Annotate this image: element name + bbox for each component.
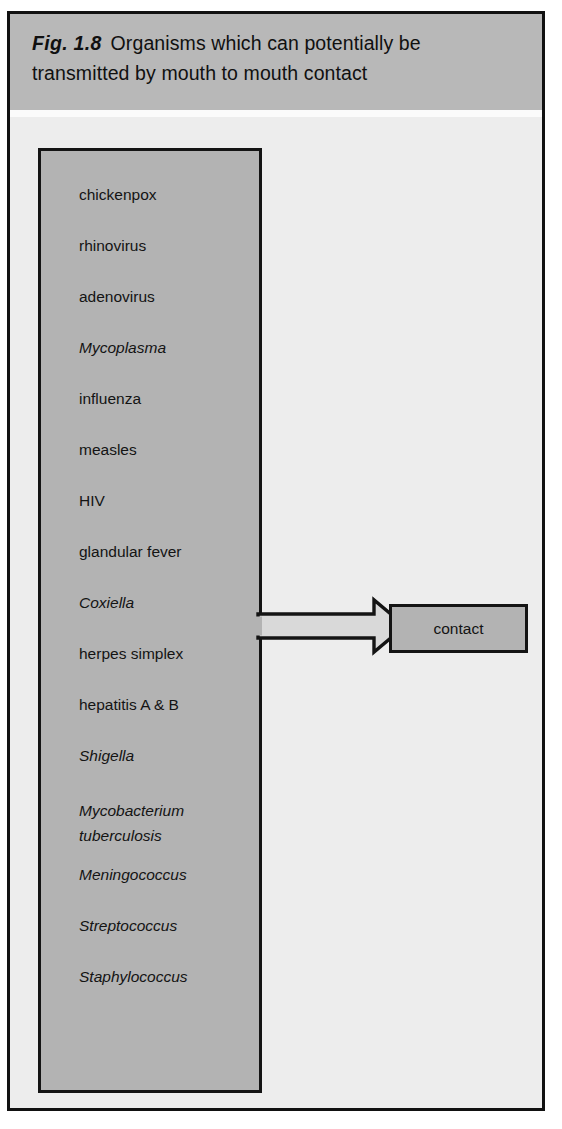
list-item: Coxiella — [41, 594, 259, 645]
list-item: HIV — [41, 492, 259, 543]
list-item: adenovirus — [41, 288, 259, 339]
list-item: influenza — [41, 390, 259, 441]
list-item: measles — [41, 441, 259, 492]
figure-frame: Fig. 1.8Organisms which can potentially … — [7, 11, 545, 1111]
figure-header: Fig. 1.8Organisms which can potentially … — [10, 14, 542, 110]
figure-number-label: Fig. 1.8 — [32, 32, 102, 54]
list-item: hepatitis A & B — [41, 696, 259, 747]
list-item: herpes simplex — [41, 645, 259, 696]
header-divider — [10, 110, 542, 117]
list-item: Mycobacterium tuberculosis — [41, 798, 259, 866]
list-item: glandular fever — [41, 543, 259, 594]
page-title: Fig. 1.8Organisms which can potentially … — [32, 28, 520, 88]
figure-body: chickenpoxrhinovirusadenovirusMycoplasma… — [10, 117, 542, 1108]
organisms-box: chickenpoxrhinovirusadenovirusMycoplasma… — [38, 148, 262, 1093]
transmission-arrow — [258, 596, 408, 656]
contact-box-label: contact — [434, 620, 484, 638]
figure-root: Fig. 1.8Organisms which can potentially … — [0, 0, 562, 1129]
list-item: rhinovirus — [41, 237, 259, 288]
organisms-list: chickenpoxrhinovirusadenovirusMycoplasma… — [41, 186, 259, 1019]
list-item: chickenpox — [41, 186, 259, 237]
list-item: Mycoplasma — [41, 339, 259, 390]
list-item: Meningococcus — [41, 866, 259, 917]
contact-box: contact — [389, 604, 528, 653]
list-item: Shigella — [41, 747, 259, 798]
list-item: Staphylococcus — [41, 968, 259, 1019]
list-item: Streptococcus — [41, 917, 259, 968]
arrow-shape-icon — [258, 600, 405, 652]
